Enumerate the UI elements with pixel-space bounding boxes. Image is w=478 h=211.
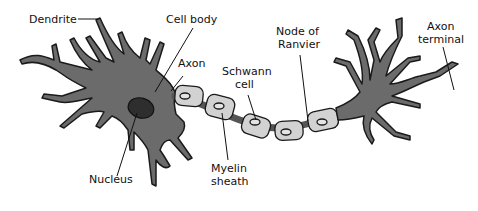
label-schwann-line2: cell [235,78,254,91]
cell-body [20,18,192,186]
schwann-cell [240,112,273,140]
myelin-sheath [174,85,340,141]
node-leader [300,55,308,121]
label-myelin-line1: Myelin [211,162,247,175]
label-dendrite: Dendrite [29,13,77,26]
label-schwann-line1: Schwann [222,65,272,78]
label-terminal-line1: Axon [427,20,454,33]
label-cell-body: Cell body [166,13,218,26]
schwann-cell [306,107,340,133]
label-axon: Axon [178,57,205,70]
label-node-line2: Ranvier [278,38,320,51]
schwann-cell [275,120,304,140]
label-nucleus: Nucleus [89,173,133,186]
label-terminal-line2: terminal [418,33,464,46]
label-myelin-line2: sheath [211,175,249,188]
label-node-line1: Node of [276,25,320,38]
neuron-diagram: Dendrite Cell body Axon Schwann cell Nod… [0,0,478,211]
schwann-cell [174,85,204,107]
schwann-cell [204,93,237,121]
